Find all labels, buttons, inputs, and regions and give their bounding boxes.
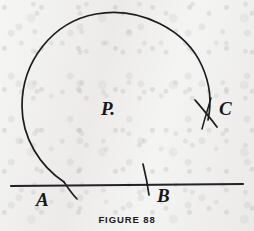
- point-label-c: C: [219, 99, 232, 118]
- point-label-b: B: [157, 186, 170, 205]
- figure-88-diagram: P. A B C FIGURE 88: [0, 0, 254, 231]
- figure-caption: FIGURE 88: [0, 214, 254, 225]
- base-line: [11, 184, 243, 186]
- point-label-a: A: [36, 190, 49, 209]
- arc-tick-at-b: [143, 164, 149, 195]
- main-arc-path: [22, 12, 210, 182]
- point-label-p: P.: [101, 99, 115, 118]
